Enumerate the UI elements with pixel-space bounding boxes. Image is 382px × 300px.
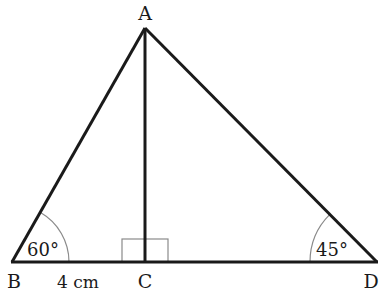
side-ad [145,28,377,262]
side-ab [12,28,145,262]
vertex-label-d: D [363,270,378,292]
triangle-diagram: A B C D 60° 45° 4 cm [0,0,382,300]
measure-label-bc: 4 cm [57,272,99,292]
vertex-label-c: C [138,270,153,292]
angle-label-d: 45° [316,239,348,260]
vertex-label-b: B [7,270,21,292]
angle-label-b: 60° [27,239,59,260]
vertex-label-a: A [137,2,152,24]
